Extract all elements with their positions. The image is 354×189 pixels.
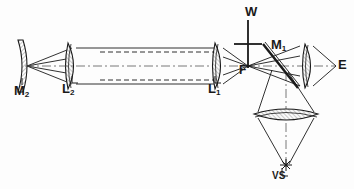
label-vs: VS xyxy=(272,171,285,181)
lens-l4 xyxy=(254,109,318,120)
lens-l3 xyxy=(303,44,311,88)
label-w: W xyxy=(245,5,257,18)
label-l1: L1 xyxy=(208,82,220,97)
label-m2: M2 xyxy=(14,84,29,99)
label-e: E xyxy=(338,58,347,71)
label-m1: M1 xyxy=(271,38,286,53)
label-l2: L2 xyxy=(62,82,74,97)
label-f: F xyxy=(239,64,246,76)
wire-w xyxy=(234,20,262,68)
optical-diagram: M2 L2 L1 W M1 F E VS xyxy=(0,0,354,189)
optical-diagram-canvas xyxy=(0,0,354,189)
